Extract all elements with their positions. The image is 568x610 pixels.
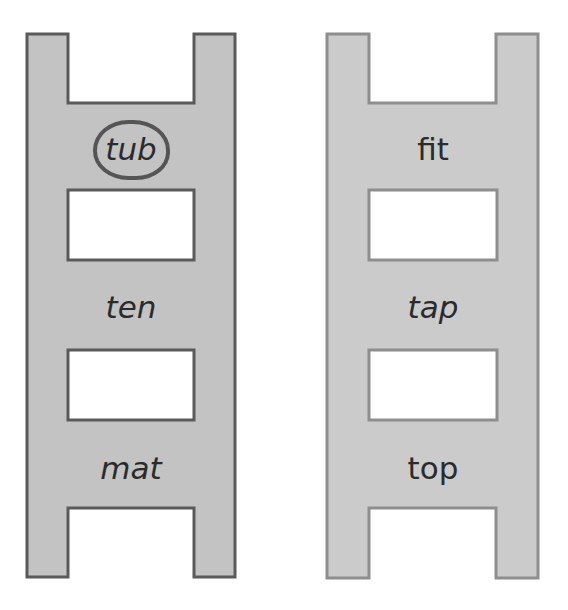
right-ladder: fit tap top: [284, 0, 568, 610]
ladder-word-mat[interactable]: mat: [68, 448, 194, 488]
left-blank-box-1[interactable]: [68, 190, 194, 260]
ladder-word-fit[interactable]: fit: [369, 129, 497, 169]
left-ladder: tub ten mat: [0, 0, 284, 610]
right-blank-box-1[interactable]: [369, 190, 497, 260]
left-blank-box-2[interactable]: [68, 350, 194, 420]
ladder-word-top[interactable]: top: [369, 448, 497, 488]
ladder-word-tap[interactable]: tap: [369, 287, 497, 327]
ladder-word-ten[interactable]: ten: [68, 287, 194, 327]
right-blank-box-2[interactable]: [369, 350, 497, 420]
ladder-word-tub[interactable]: tub: [68, 129, 194, 169]
